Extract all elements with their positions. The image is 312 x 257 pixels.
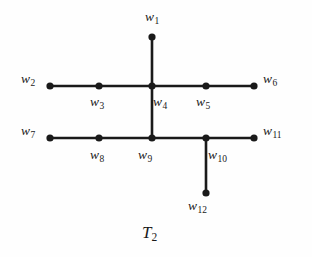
vertex-label-w10: w10 <box>208 148 227 162</box>
vertex-label-subscript: 8 <box>99 154 104 164</box>
vertex-label-base: w <box>138 147 147 162</box>
figure-caption: T2 <box>142 224 157 241</box>
vertex-label-base: w <box>263 71 272 86</box>
vertex-label-base: w <box>90 94 99 109</box>
vertex-w8 <box>95 134 102 141</box>
vertex-label-base: w <box>196 94 205 109</box>
vertex-label-base: w <box>208 147 217 162</box>
vertex-label-w5: w5 <box>196 95 210 109</box>
vertex-w7 <box>46 134 53 141</box>
vertex-label-base: w <box>21 71 30 86</box>
vertex-label-base: w <box>90 147 99 162</box>
vertex-label-subscript: 11 <box>272 130 281 140</box>
vertex-label-subscript: 6 <box>272 78 277 88</box>
figure-canvas: w1w2w3w4w5w6w7w8w9w10w11w12 T2 <box>0 0 312 257</box>
vertex-label-subscript: 2 <box>30 78 35 88</box>
vertex-w10 <box>202 134 209 141</box>
vertex-w3 <box>95 82 102 89</box>
vertex-label-base: w <box>153 94 162 109</box>
vertex-label-w2: w2 <box>21 72 35 86</box>
vertex-label-w11: w11 <box>263 124 281 138</box>
vertex-w1 <box>148 33 155 40</box>
vertex-label-subscript: 1 <box>154 16 159 26</box>
vertex-label-w9: w9 <box>138 148 152 162</box>
vertex-w4 <box>148 82 155 89</box>
vertex-label-subscript: 10 <box>217 154 227 164</box>
vertex-label-w3: w3 <box>90 95 104 109</box>
vertex-label-subscript: 4 <box>162 101 167 111</box>
vertex-label-base: w <box>21 123 30 138</box>
vertex-w6 <box>250 82 257 89</box>
vertex-label-base: w <box>145 9 154 24</box>
vertex-w12 <box>202 189 209 196</box>
vertex-label-base: w <box>263 123 272 138</box>
vertex-label-subscript: 5 <box>205 101 210 111</box>
vertex-label-w4: w4 <box>153 95 167 109</box>
vertex-w11 <box>250 134 257 141</box>
edges-group <box>50 37 254 193</box>
vertex-w5 <box>202 82 209 89</box>
vertex-label-subscript: 7 <box>30 130 35 140</box>
vertex-w9 <box>148 134 155 141</box>
vertex-label-subscript: 3 <box>99 101 104 111</box>
vertex-label-base: w <box>188 198 197 213</box>
vertex-label-w12: w12 <box>188 199 207 213</box>
vertex-label-w6: w6 <box>263 72 277 86</box>
caption-subscript: 2 <box>151 231 157 243</box>
vertex-label-w7: w7 <box>21 124 35 138</box>
vertex-w2 <box>46 82 53 89</box>
vertex-label-subscript: 12 <box>197 205 207 215</box>
vertex-label-subscript: 9 <box>147 154 152 164</box>
vertex-label-w1: w1 <box>145 10 159 24</box>
vertex-label-w8: w8 <box>90 148 104 162</box>
